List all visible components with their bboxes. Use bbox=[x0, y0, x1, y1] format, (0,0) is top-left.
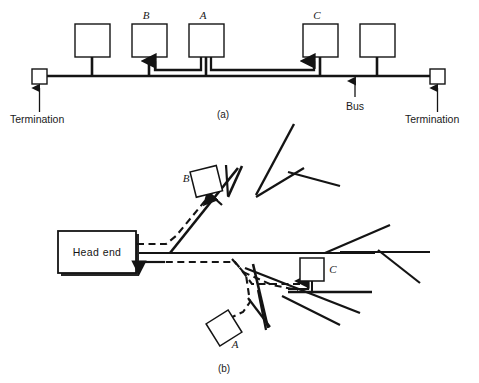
branch-below-c bbox=[282, 296, 340, 325]
branch-fork-right bbox=[288, 172, 340, 186]
node-box-c bbox=[303, 24, 338, 57]
caption-a: (a) bbox=[217, 109, 229, 120]
branch-a-tap bbox=[248, 298, 270, 327]
node-label-b: B bbox=[143, 9, 150, 21]
head-end-label: Head end bbox=[73, 246, 122, 258]
figure-svg: B A C Termination Termination Bus (a) bbox=[0, 0, 479, 383]
node-label-a: A bbox=[231, 338, 239, 350]
node-label-a: A bbox=[199, 9, 207, 21]
node-box-a bbox=[189, 24, 224, 57]
bus-label: Bus bbox=[346, 100, 364, 112]
branch-right-down bbox=[378, 250, 420, 283]
panel-b-group: Head end B A bbox=[58, 124, 430, 374]
node-box-b bbox=[190, 166, 222, 198]
termination-left-label: Termination bbox=[10, 113, 64, 125]
node-box-1 bbox=[75, 24, 110, 57]
signal-path-a-to-c bbox=[211, 57, 314, 70]
signal-path-a-to-b bbox=[155, 57, 201, 70]
termination-right-label: Termination bbox=[405, 113, 459, 125]
signal-route-headend-to-b bbox=[137, 190, 214, 244]
figure-container: B A C Termination Termination Bus (a) bbox=[0, 0, 479, 383]
termination-left-box bbox=[32, 69, 47, 84]
branch-b-stub bbox=[226, 165, 228, 196]
signal-route-to-c bbox=[243, 272, 298, 290]
branch-right-upper bbox=[325, 225, 390, 253]
panel-a-group: B A C Termination Termination Bus (a) bbox=[10, 9, 459, 125]
node-box-5 bbox=[360, 24, 395, 57]
termination-right-box bbox=[430, 69, 445, 84]
node-label-b: B bbox=[183, 172, 190, 184]
node-box-b bbox=[132, 24, 167, 57]
node-box-b-group bbox=[190, 166, 222, 198]
caption-b: (b) bbox=[218, 363, 230, 374]
node-box-c bbox=[300, 258, 324, 281]
node-label-c: C bbox=[313, 9, 321, 21]
node-label-c: C bbox=[329, 263, 337, 275]
